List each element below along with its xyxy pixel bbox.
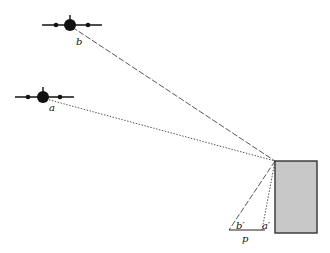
label-plane-b: b	[76, 36, 82, 47]
label-image-b: b′	[236, 220, 245, 231]
diagram-svg: b a b′ a′ p	[0, 0, 330, 253]
diagram-canvas: b a b′ a′ p	[0, 0, 330, 253]
airplane-b-icon	[42, 15, 102, 31]
label-image-plane-p: p	[242, 233, 249, 244]
label-plane-a: a	[49, 102, 55, 113]
camera-box	[275, 161, 317, 233]
airplane-a-icon	[15, 87, 74, 103]
sight-line-a	[46, 99, 275, 161]
label-image-a: a′	[262, 220, 271, 231]
sight-line-b	[72, 27, 275, 161]
